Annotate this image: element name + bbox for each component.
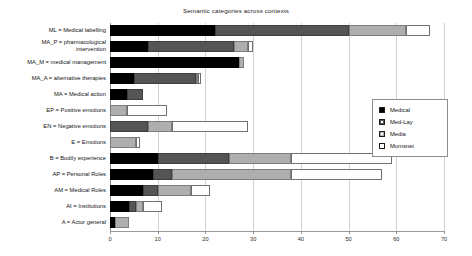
- x-tick: [444, 231, 445, 234]
- category-label: AP = Personal Roles: [52, 171, 106, 179]
- bar-segment-medical[interactable]: [110, 169, 153, 180]
- bar-segment-media[interactable]: [229, 153, 291, 164]
- category-label: EP = Positive emotions: [46, 107, 106, 115]
- category-label: A = Actor general: [62, 219, 106, 227]
- bar-segment-med-lay[interactable]: [215, 25, 349, 36]
- bar-segment-medical[interactable]: [110, 153, 158, 164]
- bar-segment-med-lay[interactable]: [158, 153, 230, 164]
- bar-segment-media[interactable]: [349, 25, 406, 36]
- bar-segment-mumsnet[interactable]: [291, 169, 382, 180]
- bar-row[interactable]: [110, 55, 444, 71]
- bar-segment-medical[interactable]: [110, 201, 129, 212]
- bar-row[interactable]: [110, 71, 444, 87]
- bar-segment-medical[interactable]: [110, 57, 239, 68]
- med-lay-swatch: [379, 119, 385, 125]
- x-tick-label: 20: [202, 236, 208, 242]
- bar-segment-media[interactable]: [239, 57, 244, 68]
- bar-segment-medical[interactable]: [110, 185, 143, 196]
- x-axis-line: [110, 231, 444, 232]
- bar-segment-mumsnet[interactable]: [248, 41, 253, 52]
- x-tick-label: 70: [441, 236, 447, 242]
- x-tick: [301, 231, 302, 234]
- bar-segment-mumsnet[interactable]: [136, 137, 140, 148]
- mumsnet-swatch: [379, 143, 385, 149]
- legend-item[interactable]: Mumsnet: [373, 140, 447, 152]
- bar-segment-mumsnet[interactable]: [198, 73, 200, 84]
- bar-segment-media[interactable]: [234, 41, 248, 52]
- legend-item[interactable]: Medical: [373, 104, 447, 116]
- x-tick: [349, 231, 350, 234]
- bar-segment-mumsnet[interactable]: [172, 121, 248, 132]
- x-tick-label: 40: [298, 236, 304, 242]
- bar-segment-med-lay[interactable]: [148, 41, 234, 52]
- bar-segment-medical[interactable]: [110, 25, 215, 36]
- bar-segment-media[interactable]: [158, 185, 191, 196]
- category-label: EN = Negative emotions: [43, 123, 106, 131]
- bar-segment-media[interactable]: [172, 169, 291, 180]
- bar-row[interactable]: [110, 39, 444, 55]
- bar-segment-media[interactable]: [115, 217, 129, 228]
- x-tick-label: 0: [108, 236, 111, 242]
- bar-segment-medical[interactable]: [110, 89, 127, 100]
- bar-segment-med-lay[interactable]: [134, 73, 196, 84]
- bar-segment-med-lay[interactable]: [110, 121, 148, 132]
- media-swatch: [379, 131, 385, 137]
- medical-swatch: [379, 107, 385, 113]
- legend-label: Mumsnet: [390, 143, 414, 149]
- x-tick-label: 10: [155, 236, 161, 242]
- bar-row[interactable]: [110, 167, 444, 183]
- category-label: MA_A = alternative therapies: [32, 75, 106, 83]
- bar-row[interactable]: [110, 199, 444, 215]
- chart-legend: MedicalMed-LayMediaMumsnet: [372, 99, 448, 157]
- bar-segment-med-lay[interactable]: [129, 201, 136, 212]
- bar-segment-media[interactable]: [136, 201, 143, 212]
- category-label: MA_M = medical management: [27, 59, 106, 67]
- bar-segment-media[interactable]: [110, 105, 127, 116]
- bar-segment-mumsnet[interactable]: [191, 185, 210, 196]
- bar-row[interactable]: [110, 215, 444, 231]
- bar-segment-medical[interactable]: [110, 73, 134, 84]
- bar-row[interactable]: [110, 23, 444, 39]
- x-tick: [205, 231, 206, 234]
- bar-segment-med-lay[interactable]: [153, 169, 172, 180]
- legend-label: Medical: [390, 107, 410, 113]
- category-label: MA = Medical action: [54, 91, 106, 99]
- legend-label: Media: [390, 131, 406, 137]
- bar-segment-medical[interactable]: [110, 41, 148, 52]
- legend-item[interactable]: Med-Lay: [373, 116, 447, 128]
- category-label: E = Emotions: [71, 139, 106, 147]
- bar-segment-media[interactable]: [148, 121, 172, 132]
- x-tick: [253, 231, 254, 234]
- category-label: AM = Medical Roles: [54, 187, 106, 195]
- x-tick-label: 50: [345, 236, 351, 242]
- category-label: MA_P = pharmacological intervention: [42, 39, 107, 54]
- x-tick: [396, 231, 397, 234]
- bar-segment-mumsnet[interactable]: [127, 105, 168, 116]
- bar-segment-med-lay[interactable]: [143, 185, 157, 196]
- category-label: AI = Institutions: [66, 203, 106, 211]
- x-tick-label: 30: [250, 236, 256, 242]
- bar-segment-mumsnet[interactable]: [406, 25, 430, 36]
- bar-segment-mumsnet[interactable]: [143, 201, 162, 212]
- x-tick: [110, 231, 111, 234]
- semantic-categories-bar-chart: Semantic categories across contexts 0102…: [0, 0, 472, 256]
- x-tick: [158, 231, 159, 234]
- bar-row[interactable]: [110, 183, 444, 199]
- legend-item[interactable]: Media: [373, 128, 447, 140]
- category-label: ML = Medical labelling: [49, 27, 106, 35]
- chart-title: Semantic categories across contexts: [0, 7, 472, 14]
- legend-label: Med-Lay: [390, 119, 413, 125]
- category-label: B = Bodily experience: [50, 155, 106, 163]
- bar-segment-media[interactable]: [110, 137, 136, 148]
- x-tick-label: 60: [393, 236, 399, 242]
- bar-segment-med-lay[interactable]: [127, 89, 144, 100]
